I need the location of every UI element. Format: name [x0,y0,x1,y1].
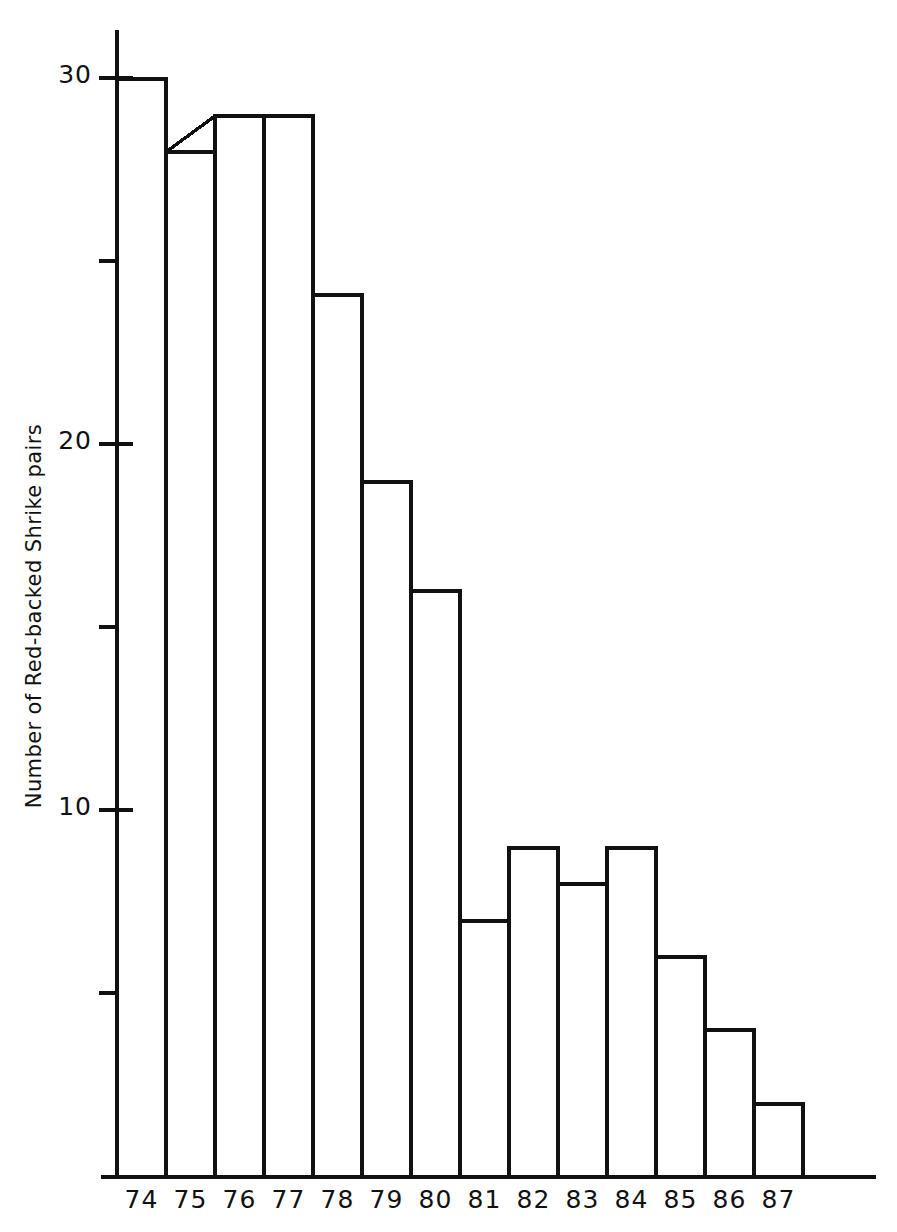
bar-82 [509,848,558,1177]
bar-85 [656,957,705,1177]
bar-83 [558,884,607,1177]
bar-77 [264,116,313,1177]
bar-87 [754,1104,803,1177]
bar-81 [460,921,509,1177]
bar-75 [166,152,215,1177]
bar-78 [313,295,362,1177]
bars-group [117,79,803,1177]
chart-figure: Number of Red-backed Shrike pairs 30 20 … [0,0,897,1232]
bar-86 [705,1030,754,1177]
plot-area [0,0,897,1232]
bar-74 [117,79,166,1177]
bar-76 [215,116,264,1177]
bar-80 [411,591,460,1177]
bar-79 [362,482,411,1177]
bar-84 [607,848,656,1177]
